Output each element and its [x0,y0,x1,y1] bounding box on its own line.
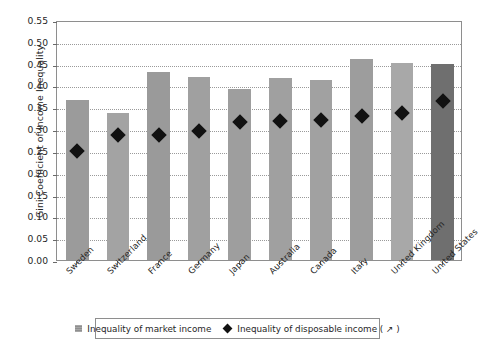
y-axis-tickmark [53,262,57,263]
y-axis-tick-label: 0.25 [14,147,48,156]
diamond-marker [70,143,86,159]
diamond-marker [232,114,248,130]
legend-label-disposable-income: Inequality of disposable income ( ↗ ) [237,324,399,334]
y-axis-tick-label: 0.50 [14,38,48,47]
diamond-marker [110,128,126,144]
y-axis-tick-label: 0.20 [14,169,48,178]
legend-item-disposable-income: Inequality of disposable income ( ↗ ) [223,324,399,334]
y-axis-tick-label: 0.30 [14,125,48,134]
legend-item-market-income: Inequality of market income [75,324,211,334]
legend-label-market-income: Inequality of market income [87,324,211,334]
y-axis-tick-label: 0.45 [14,60,48,69]
y-axis-tick-label: 0.40 [14,81,48,90]
diamond-marker [313,112,329,128]
plot-area [56,21,462,261]
diamond-marker [435,93,451,109]
y-axis-tick-label: 0.15 [14,191,48,200]
y-axis-tick-label: 0.00 [14,256,48,265]
y-axis-tick-label: 0.55 [14,16,48,25]
diamond-marker [354,108,370,124]
y-axis-tick-label: 0.10 [14,212,48,221]
marker-series-disposable-income [57,22,461,260]
chart-legend: Inequality of market income Inequality o… [95,318,380,339]
y-axis-tick-label: 0.35 [14,103,48,112]
diamond-marker-icon [223,324,233,334]
diamond-marker [191,123,207,139]
diamond-marker [151,127,167,143]
y-axis-tick-label: 0.05 [14,234,48,243]
y-axis-tick-labels: 0.550.500.450.400.350.300.250.200.150.10… [14,0,48,360]
diamond-marker [273,114,289,130]
diamond-marker [394,105,410,121]
square-marker-icon [75,325,82,332]
